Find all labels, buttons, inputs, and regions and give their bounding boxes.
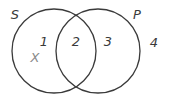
set-p-label: P: [133, 8, 141, 21]
x-marker: X: [31, 51, 40, 64]
set-p-circle: [56, 9, 140, 93]
set-s-circle: [12, 9, 96, 93]
region-4-label: 4: [150, 36, 158, 49]
region-1-label: 1: [40, 35, 48, 48]
region-2-label: 2: [72, 35, 80, 48]
region-3-label: 3: [104, 35, 112, 48]
venn-diagram: [0, 0, 169, 96]
set-s-label: S: [11, 8, 19, 21]
